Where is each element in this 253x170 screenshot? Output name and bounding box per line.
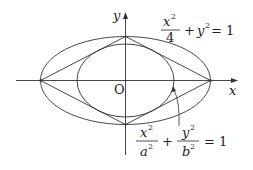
svg-text:2: 2 — [148, 142, 153, 151]
svg-text:4: 4 — [166, 30, 174, 45]
ellipse-diagram: y x O x 2 4 + y 2 = 1 x 2 a 2 + y 2 b 2 … — [0, 0, 253, 170]
origin-label: O — [114, 82, 125, 97]
svg-text:+: + — [184, 23, 195, 38]
svg-text:y: y — [181, 125, 190, 140]
svg-text:2: 2 — [190, 123, 195, 132]
x-axis-label: x — [229, 83, 237, 98]
y-axis-arrow-icon — [123, 12, 128, 19]
outer-ellipse-equation: x 2 4 + y 2 = 1 — [161, 12, 234, 45]
pointer-arrow — [174, 90, 179, 126]
svg-text:a: a — [140, 144, 148, 159]
vertex-right — [209, 79, 211, 81]
svg-text:2: 2 — [148, 123, 153, 132]
svg-text:= 1: = 1 — [211, 23, 234, 38]
vertex-left — [39, 79, 41, 81]
svg-text:x: x — [163, 14, 171, 29]
svg-text:2: 2 — [205, 21, 210, 30]
inner-ellipse-equation: x 2 a 2 + y 2 b 2 = 1 — [136, 123, 227, 159]
y-axis-label: y — [112, 8, 121, 23]
svg-text:= 1: = 1 — [204, 134, 227, 149]
svg-text:x: x — [140, 125, 148, 140]
svg-text:y: y — [196, 23, 205, 38]
svg-text:+: + — [162, 134, 173, 149]
svg-text:2: 2 — [171, 12, 176, 21]
svg-text:2: 2 — [190, 142, 195, 151]
